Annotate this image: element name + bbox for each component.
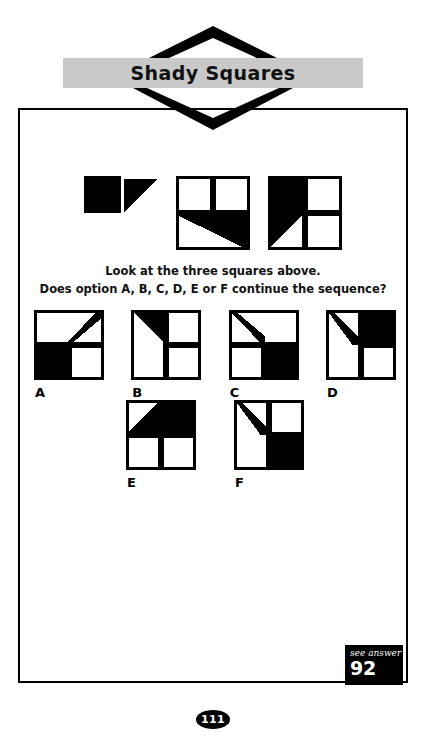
option-d-label: D: [327, 385, 338, 400]
option-e-label: E: [127, 475, 136, 490]
prompt-block: Look at the three squares above. Does op…: [20, 262, 406, 298]
option-c-figure: [229, 310, 299, 380]
option-f-figure: [234, 400, 304, 470]
prompt-line-1: Look at the three squares above.: [20, 262, 406, 280]
option-e[interactable]: E: [126, 400, 196, 490]
prompt-line-2: Does option A, B, C, D, E or F continue …: [20, 280, 406, 298]
option-f-label: F: [235, 475, 244, 490]
option-f[interactable]: F: [234, 400, 304, 490]
options-row-1: ABCD: [34, 310, 396, 400]
option-d[interactable]: D: [326, 310, 396, 400]
see-answer-number: 92: [350, 658, 403, 679]
puzzle-frame: Look at the three squares above. Does op…: [18, 108, 408, 683]
option-b[interactable]: B: [131, 310, 201, 400]
option-a-label: A: [35, 385, 45, 400]
sequence-square-2: [176, 176, 250, 250]
option-e-figure: [126, 400, 196, 470]
page-title: Shady Squares: [130, 62, 295, 84]
option-d-figure: [326, 310, 396, 380]
sequence-square-3: [268, 176, 342, 250]
option-c[interactable]: C: [229, 310, 299, 400]
option-b-label: B: [132, 385, 142, 400]
option-a[interactable]: A: [34, 310, 104, 400]
option-c-label: C: [230, 385, 240, 400]
sequence-row: [20, 176, 406, 250]
option-a-figure: [34, 310, 104, 380]
page-header: Shady Squares: [0, 0, 426, 112]
sequence-square-1: [84, 176, 158, 250]
see-answer-box[interactable]: see answer 92: [345, 645, 403, 685]
options-row-2: EF: [126, 400, 304, 490]
page-number-badge: 111: [196, 710, 230, 729]
option-b-figure: [131, 310, 201, 380]
title-banner: Shady Squares: [63, 58, 363, 88]
